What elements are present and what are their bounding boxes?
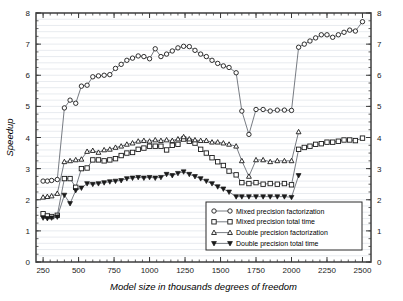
svg-text:8: 8 (377, 9, 382, 18)
data-point (153, 176, 158, 180)
svg-text:2500: 2500 (354, 266, 372, 275)
data-point (268, 181, 272, 185)
data-point (210, 58, 214, 62)
legend-marker (212, 209, 216, 213)
data-point (49, 193, 54, 197)
data-point (176, 46, 180, 50)
data-point (210, 156, 214, 160)
legend-marker (228, 209, 232, 213)
data-point (289, 158, 294, 162)
data-point (308, 144, 312, 148)
data-point (164, 137, 169, 141)
data-point (210, 182, 215, 186)
data-point (176, 142, 180, 146)
svg-text:3: 3 (377, 165, 382, 174)
data-point (261, 107, 265, 111)
data-series (41, 20, 365, 221)
data-point (261, 157, 266, 161)
data-point (73, 189, 78, 193)
data-point (289, 183, 293, 187)
svg-text:750: 750 (107, 266, 121, 275)
data-point (79, 166, 83, 170)
data-point (147, 57, 151, 61)
data-point (91, 158, 95, 162)
data-point (221, 64, 225, 68)
data-point (49, 178, 53, 182)
data-point (68, 158, 73, 162)
data-point (79, 84, 83, 88)
data-point (158, 138, 163, 142)
data-point (247, 174, 252, 178)
data-point (289, 195, 294, 199)
data-point (240, 180, 244, 184)
data-point (85, 83, 89, 87)
data-point (268, 159, 273, 163)
data-point (90, 182, 95, 186)
svg-text:2250: 2250 (318, 266, 336, 275)
data-point (221, 141, 226, 145)
data-point (204, 54, 208, 58)
data-point (360, 136, 364, 140)
data-point (254, 180, 258, 184)
data-point (198, 138, 203, 142)
data-point (181, 44, 185, 48)
data-point (302, 42, 306, 46)
data-point (170, 49, 174, 53)
legend-label: Mixed precision factorization (236, 208, 324, 216)
data-point (119, 153, 123, 157)
data-point (275, 108, 279, 112)
data-point (198, 147, 202, 151)
data-point (113, 66, 117, 70)
data-point (125, 151, 129, 155)
data-point (204, 151, 208, 155)
data-point (41, 179, 45, 183)
svg-text:0: 0 (377, 258, 382, 267)
data-point (215, 160, 219, 164)
legend-marker (212, 220, 216, 224)
data-point (164, 52, 168, 56)
data-point (204, 138, 209, 142)
svg-text:0: 0 (26, 258, 31, 267)
data-point (108, 72, 112, 76)
svg-text:250: 250 (36, 266, 50, 275)
data-point (41, 212, 45, 216)
data-point (234, 173, 238, 177)
data-point (141, 138, 146, 142)
data-point (153, 47, 157, 51)
svg-text:1750: 1750 (247, 266, 265, 275)
data-point (319, 142, 323, 146)
data-point (261, 182, 265, 186)
svg-text:4: 4 (377, 134, 382, 143)
data-point (239, 158, 244, 162)
data-point (360, 20, 364, 24)
data-point (85, 166, 89, 170)
data-point (268, 109, 272, 113)
data-point (308, 39, 312, 43)
data-point (348, 138, 352, 142)
data-point (108, 158, 112, 162)
data-point (313, 36, 317, 40)
data-point (193, 137, 198, 141)
svg-text:2000: 2000 (283, 266, 301, 275)
svg-text:1: 1 (26, 227, 31, 236)
data-point (289, 108, 293, 112)
data-point (73, 157, 78, 161)
data-point (319, 33, 323, 37)
svg-text:5: 5 (26, 102, 31, 111)
data-point (234, 71, 238, 75)
data-point (147, 139, 152, 143)
legend-label: Double precision factorization (236, 229, 328, 237)
svg-text:1: 1 (377, 227, 382, 236)
data-point (68, 202, 73, 206)
data-point (353, 29, 357, 33)
data-point (102, 159, 106, 163)
data-point (227, 190, 232, 194)
svg-text:1000: 1000 (141, 266, 159, 275)
data-point (296, 129, 301, 133)
data-point (96, 150, 101, 154)
data-point (275, 182, 279, 186)
data-point (240, 109, 244, 113)
svg-text:6: 6 (377, 71, 382, 80)
data-point (227, 169, 231, 173)
data-point (254, 107, 258, 111)
